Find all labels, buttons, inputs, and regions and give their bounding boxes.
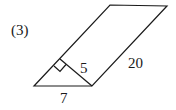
- base-label: 7: [60, 91, 68, 106]
- right-angle-marker: [54, 65, 66, 72]
- side-label: 20: [128, 56, 143, 71]
- parallelogram-outline: [34, 5, 167, 86]
- parallelogram-diagram: [0, 0, 176, 110]
- altitude-label: 5: [80, 61, 88, 76]
